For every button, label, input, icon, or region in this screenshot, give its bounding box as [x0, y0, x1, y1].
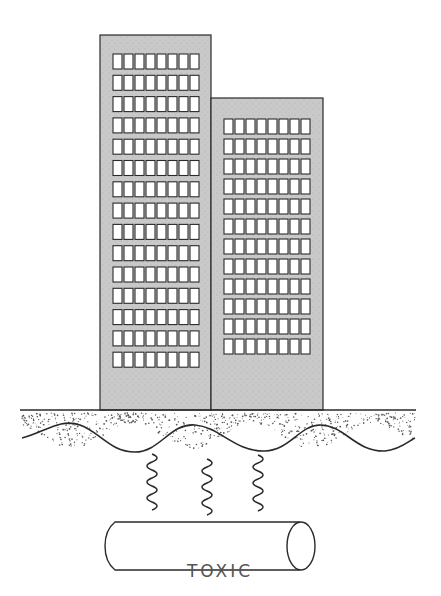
- window: [157, 331, 166, 346]
- window: [146, 54, 155, 69]
- window: [168, 331, 177, 346]
- window: [301, 139, 310, 154]
- window: [246, 119, 255, 134]
- window: [113, 182, 122, 197]
- window: [301, 159, 310, 174]
- window: [290, 139, 299, 154]
- window: [168, 161, 177, 176]
- window: [168, 54, 177, 69]
- window: [146, 118, 155, 133]
- window: [279, 179, 288, 194]
- window: [179, 310, 188, 325]
- window: [190, 182, 199, 197]
- window: [157, 224, 166, 239]
- window: [146, 161, 155, 176]
- window: [290, 239, 299, 254]
- window: [257, 279, 266, 294]
- window: [168, 224, 177, 239]
- window: [124, 75, 133, 90]
- window: [257, 159, 266, 174]
- window: [246, 259, 255, 274]
- window: [135, 54, 144, 69]
- window: [113, 139, 122, 154]
- window: [235, 299, 244, 314]
- window: [301, 179, 310, 194]
- window: [113, 54, 122, 69]
- window: [301, 339, 310, 354]
- window: [279, 199, 288, 214]
- window: [135, 288, 144, 303]
- window: [224, 319, 233, 334]
- window: [257, 259, 266, 274]
- window: [190, 203, 199, 218]
- window: [290, 179, 299, 194]
- window: [124, 118, 133, 133]
- window: [301, 239, 310, 254]
- window: [290, 219, 299, 234]
- window: [135, 118, 144, 133]
- window: [190, 331, 199, 346]
- window: [224, 339, 233, 354]
- window: [157, 203, 166, 218]
- window: [135, 246, 144, 261]
- window: [157, 267, 166, 282]
- window: [279, 319, 288, 334]
- window: [146, 267, 155, 282]
- window: [168, 97, 177, 112]
- window: [124, 288, 133, 303]
- window: [190, 118, 199, 133]
- window: [157, 97, 166, 112]
- window: [157, 182, 166, 197]
- window: [190, 161, 199, 176]
- short-building: [211, 98, 323, 410]
- window: [168, 139, 177, 154]
- window: [235, 279, 244, 294]
- window: [246, 139, 255, 154]
- window: [268, 239, 277, 254]
- window: [124, 139, 133, 154]
- window: [224, 299, 233, 314]
- window: [113, 224, 122, 239]
- window: [301, 119, 310, 134]
- window: [124, 54, 133, 69]
- window: [113, 331, 122, 346]
- window: [268, 259, 277, 274]
- window: [290, 259, 299, 274]
- window: [135, 267, 144, 282]
- window: [146, 139, 155, 154]
- window: [113, 161, 122, 176]
- window: [301, 219, 310, 234]
- window: [279, 219, 288, 234]
- window: [246, 179, 255, 194]
- window: [190, 97, 199, 112]
- window: [179, 97, 188, 112]
- window: [179, 352, 188, 367]
- window: [168, 75, 177, 90]
- window: [157, 139, 166, 154]
- window: [168, 267, 177, 282]
- window: [301, 199, 310, 214]
- window: [146, 331, 155, 346]
- window: [268, 219, 277, 234]
- window: [179, 331, 188, 346]
- window: [301, 319, 310, 334]
- window: [301, 299, 310, 314]
- window: [113, 352, 122, 367]
- window: [113, 288, 122, 303]
- window: [179, 118, 188, 133]
- window: [146, 203, 155, 218]
- window: [290, 199, 299, 214]
- window: [146, 182, 155, 197]
- window: [179, 267, 188, 282]
- window: [157, 54, 166, 69]
- window: [246, 199, 255, 214]
- window: [190, 246, 199, 261]
- window: [124, 161, 133, 176]
- window: [124, 352, 133, 367]
- window: [235, 219, 244, 234]
- window: [257, 119, 266, 134]
- window: [279, 159, 288, 174]
- window: [235, 199, 244, 214]
- window: [179, 246, 188, 261]
- window: [113, 97, 122, 112]
